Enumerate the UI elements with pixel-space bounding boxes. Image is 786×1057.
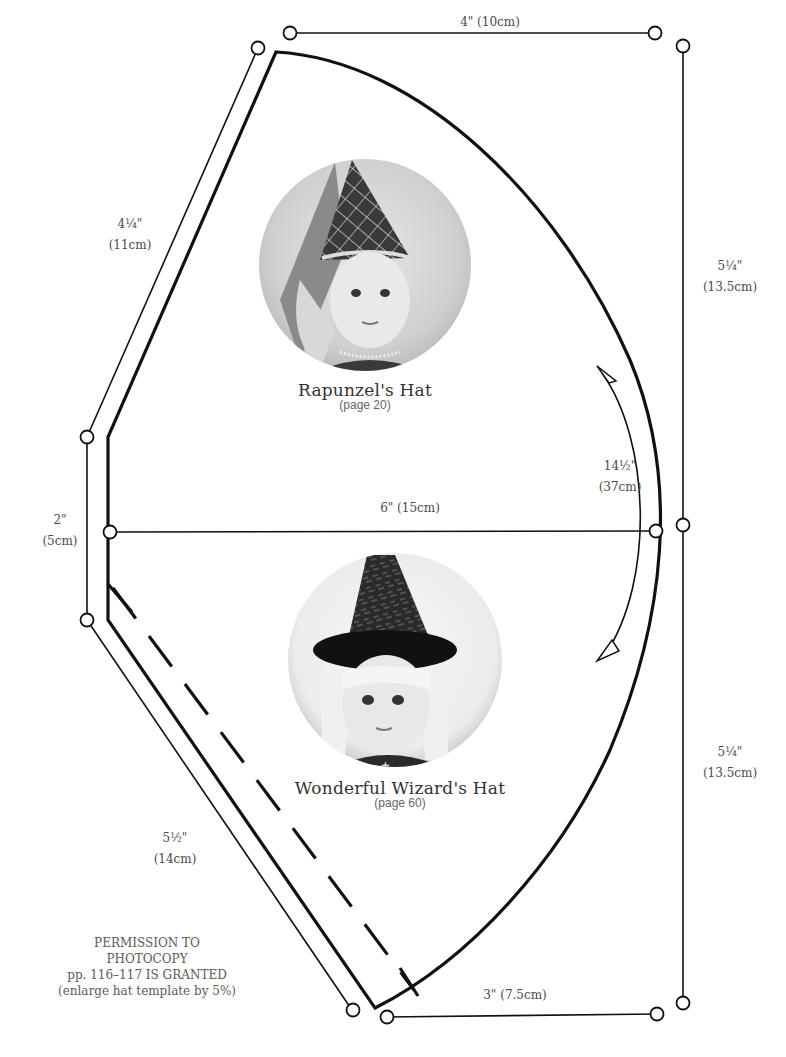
star-icon: ★	[380, 759, 391, 773]
marker-circle	[677, 519, 690, 532]
permission-note: PERMISSION TO PHOTOCOPY pp. 116–117 IS G…	[52, 935, 242, 999]
dimension-upper-left-label: 4¼" (11cm)	[95, 214, 165, 256]
marker-circle	[252, 42, 265, 55]
marker-circle	[651, 1008, 664, 1021]
marker-circle	[81, 614, 94, 627]
arrowhead-up-icon	[597, 366, 616, 383]
marker-circle	[81, 431, 94, 444]
marker-circle	[381, 1011, 394, 1024]
marker-circle	[650, 525, 663, 538]
marker-circle	[104, 526, 117, 539]
dimension-arc-label: 14½" (37cm)	[590, 456, 650, 498]
dimension-top-label: 4" (10cm)	[440, 12, 540, 33]
rapunzel-title: Rapunzel's Hat	[265, 380, 465, 400]
marker-circle	[649, 27, 662, 40]
hat-pattern-diagram: ★	[0, 0, 786, 1057]
dimension-bottom-label: 3" (7.5cm)	[460, 985, 570, 1006]
dimension-middle-label: 6" (15cm)	[360, 498, 460, 519]
rapunzel-caption: Rapunzel's Hat (page 20)	[265, 380, 465, 412]
dimension-right-lower-label: 5¼" (13.5cm)	[690, 742, 770, 784]
rapunzel-hat-photo	[259, 159, 471, 400]
wizard-hat-photo: ★	[288, 553, 502, 790]
marker-circle	[284, 27, 297, 40]
wizard-page-ref: (page 60)	[285, 796, 515, 810]
arc-arrow	[597, 366, 640, 661]
marker-circle	[677, 40, 690, 53]
rapunzel-page-ref: (page 20)	[265, 398, 465, 412]
wizard-caption: Wonderful Wizard's Hat (page 60)	[285, 778, 515, 810]
arrowhead-down-icon	[597, 640, 619, 661]
wizard-title: Wonderful Wizard's Hat	[285, 778, 515, 798]
dimension-left-vertical-label: 2" (5cm)	[30, 510, 90, 552]
marker-circle	[347, 1004, 360, 1017]
dimension-lower-left-label: 5½" (14cm)	[140, 828, 210, 870]
marker-circle	[677, 997, 690, 1010]
dimension-right-upper-label: 5¼" (13.5cm)	[690, 256, 770, 298]
